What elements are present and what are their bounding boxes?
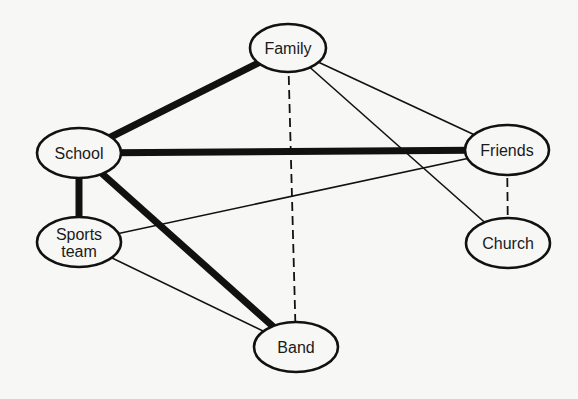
node-band: Band [254, 322, 338, 372]
node-church: Church [466, 218, 550, 268]
edge-friends-sports [79, 150, 507, 242]
node-label: School [55, 145, 104, 162]
node-label: Band [277, 339, 314, 356]
node-sports: Sportsteam [37, 217, 121, 267]
node-label: Sports [56, 226, 102, 243]
node-label: team [61, 243, 97, 260]
node-family: Family [250, 24, 326, 72]
nodes-layer: FamilySchoolFriendsSportsteamChurchBand [37, 24, 550, 372]
node-label: Family [264, 40, 311, 57]
node-label: Friends [480, 142, 533, 159]
edge-school-friends [79, 150, 507, 153]
social-network-diagram: FamilySchoolFriendsSportsteamChurchBand [0, 0, 578, 399]
node-label: Church [482, 235, 534, 252]
edges-layer [79, 48, 508, 347]
node-friends: Friends [465, 125, 549, 175]
node-school: School [37, 128, 121, 178]
